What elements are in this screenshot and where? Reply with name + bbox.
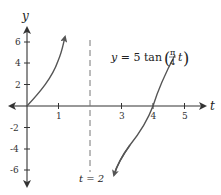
t-tick-1: 1 (56, 111, 62, 121)
eq-frac-den: 4 (170, 58, 175, 67)
t-tick-5: 5 (182, 111, 188, 121)
y-tick-2: 2 (15, 80, 21, 90)
t-tick-4: 4 (151, 111, 157, 121)
function-label: y = 5 tan ( π 4 t ) (110, 48, 189, 68)
svg-text:): ) (183, 49, 189, 68)
asymptote-label: t = 2 (79, 173, 104, 184)
y-tick-neg6: -6 (10, 165, 19, 175)
curve-branch-1 (27, 37, 65, 106)
y-axis-label: y (21, 9, 29, 23)
y-tick-6: 6 (15, 37, 21, 47)
eq-frac-num: π (170, 48, 175, 57)
y-tick-neg2: -2 (10, 123, 19, 133)
y-tick-4: 4 (15, 58, 21, 68)
y-tick-neg4: -4 (10, 144, 19, 154)
curve-branch-2-arrowhead (114, 145, 130, 175)
svg-text:y = 5 tan: y = 5 tan (110, 51, 162, 64)
tangent-graph: y t 1 3 4 5 6 4 2 -2 -4 -6 t = 2 y = 5 t… (0, 0, 221, 195)
t-tick-3: 3 (119, 111, 125, 121)
t-axis-label: t (210, 99, 215, 113)
